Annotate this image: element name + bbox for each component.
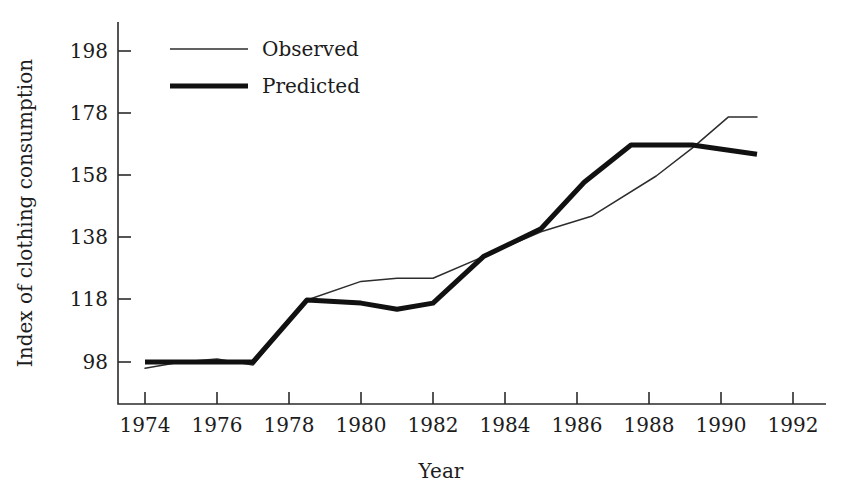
y-tick-labels: 198 178 158 138 118 98: [70, 39, 108, 374]
x-tick-label-1982: 1982: [408, 413, 459, 437]
y-tick-label-198: 198: [70, 39, 108, 63]
chart-figure: 198 178 158 138 118 98 1974 1976 1978 19…: [0, 0, 842, 493]
series-line-predicted: [145, 145, 757, 362]
y-tick-label-118: 118: [70, 287, 108, 311]
x-tick-label-1980: 1980: [336, 413, 387, 437]
y-tick-label-98: 98: [83, 350, 108, 374]
axis-lines: [118, 22, 826, 404]
legend-label-predicted: Predicted: [262, 74, 360, 98]
legend-label-observed: Observed: [262, 37, 359, 61]
x-tick-label-1976: 1976: [192, 413, 243, 437]
x-tick-label-1990: 1990: [696, 413, 747, 437]
x-tick-marks: [145, 392, 793, 404]
x-tick-label-1992: 1992: [768, 413, 819, 437]
y-tick-marks: [118, 51, 131, 362]
x-axis-title: Year: [418, 459, 464, 483]
y-axis-title: Index of clothing consumption: [13, 59, 37, 367]
x-tick-label-1986: 1986: [552, 413, 603, 437]
x-tick-label-1984: 1984: [480, 413, 531, 437]
x-tick-label-1978: 1978: [264, 413, 315, 437]
chart-legend: Observed Predicted: [170, 37, 360, 98]
y-tick-label-138: 138: [70, 225, 108, 249]
y-tick-label-158: 158: [70, 163, 108, 187]
x-tick-label-1974: 1974: [120, 413, 171, 437]
axes-group: [118, 22, 826, 404]
y-tick-label-178: 178: [70, 101, 108, 125]
series-line-observed: [145, 117, 757, 368]
line-chart-svg: 198 178 158 138 118 98 1974 1976 1978 19…: [0, 0, 842, 493]
x-tick-labels: 1974 1976 1978 1980 1982 1984 1986 1988 …: [120, 413, 819, 437]
x-tick-label-1988: 1988: [624, 413, 675, 437]
